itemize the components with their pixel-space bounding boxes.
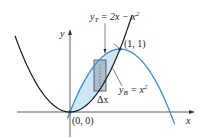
x-axis-arrow xyxy=(189,110,195,114)
origin-point-label: (0, 0) xyxy=(72,115,94,127)
curve-y-bottom xyxy=(15,15,132,112)
x-axis-label: x xyxy=(185,115,191,126)
region-between-curves-diagram: yT = 2x − x2 yB = x2 (1, 1) (0, 0) Δx x … xyxy=(0,0,201,138)
bottom-curve-label: yB = x2 xyxy=(118,83,148,97)
intersection-point xyxy=(118,47,121,50)
y-axis-arrow xyxy=(68,29,72,35)
origin-point xyxy=(68,110,71,113)
intersection-point-label: (1, 1) xyxy=(124,38,146,50)
delta-x-label: Δx xyxy=(97,94,108,105)
top-curve-label: yT = 2x − x2 xyxy=(89,10,140,24)
y-axis-label: y xyxy=(59,28,65,39)
